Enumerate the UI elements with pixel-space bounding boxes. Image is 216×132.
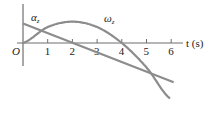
chart: 123456 O t (s) αz ωz — [0, 0, 216, 132]
x-tick-label: 4 — [119, 45, 125, 57]
omega-z-curve — [23, 22, 170, 99]
x-tick-label: 6 — [168, 45, 174, 57]
origin-label: O — [12, 45, 20, 57]
x-ticks: 123456 — [45, 39, 175, 57]
x-tick-label: 1 — [45, 45, 51, 57]
x-axis-label: t (s) — [186, 37, 204, 50]
alpha-z-label: αz — [31, 11, 40, 25]
x-tick-label: 2 — [69, 45, 75, 57]
omega-z-label: ωz — [104, 12, 115, 26]
x-tick-label: 5 — [144, 45, 150, 57]
